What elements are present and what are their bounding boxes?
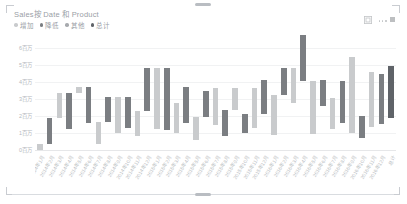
bar-2014年12月[interactable] <box>144 31 150 150</box>
bar-segment <box>232 88 238 110</box>
chart-plot-area: 0百万1百万2百万3百万4百万5百万6百万 2014年1月2014年2月2014… <box>14 31 396 191</box>
bar-2015年5月[interactable] <box>193 31 199 150</box>
bar-2015年10月[interactable] <box>242 31 248 150</box>
legend-label-total: 总计 <box>96 20 110 30</box>
bar-2016年8月[interactable] <box>340 31 346 150</box>
bar-segment <box>96 122 102 144</box>
bar-segment <box>379 74 385 124</box>
x-axis-tick-label: 总计 <box>386 154 396 166</box>
page-title: Sales按 Date 和 Product <box>14 8 99 19</box>
bar-2015年11月[interactable] <box>252 31 258 150</box>
bar-segment <box>388 66 394 118</box>
resize-handle-top[interactable] <box>195 3 211 6</box>
y-axis-tick-label: 2百万 <box>19 112 32 120</box>
bar-2015年2月[interactable] <box>164 31 170 150</box>
bar-segment <box>320 80 326 106</box>
bar-2016年6月[interactable] <box>320 31 326 150</box>
bar-2015年9月[interactable] <box>232 31 238 150</box>
y-axis-tick-label: 5百万 <box>19 61 32 69</box>
bar-segment <box>154 68 160 128</box>
bar-2014年1月[interactable] <box>37 31 43 150</box>
bar-2014年2月[interactable] <box>47 31 53 150</box>
visual-header-actions <box>364 10 395 28</box>
bar-2015年8月[interactable] <box>222 31 228 150</box>
bar-2016年12月[interactable] <box>379 31 385 150</box>
bar-2016年1月[interactable] <box>271 31 277 150</box>
more-options-icon[interactable] <box>379 17 395 22</box>
bar-2015年1月[interactable] <box>154 31 160 150</box>
bar-segment <box>66 93 72 129</box>
legend-label-decrease: 降低 <box>45 20 59 30</box>
y-axis-tick-label: 4百万 <box>19 78 32 86</box>
bar-segment <box>57 93 63 118</box>
bar-segment <box>349 57 355 133</box>
legend-swatch-total <box>91 23 95 27</box>
bar-2014年8月[interactable] <box>105 31 111 150</box>
bar-2014年4月[interactable] <box>66 31 72 150</box>
y-axis-tick-label: 3百万 <box>19 95 32 103</box>
bar-segment <box>125 97 131 128</box>
bar-总计[interactable] <box>388 31 394 150</box>
bar-segment <box>271 95 277 135</box>
bar-segment <box>135 111 141 137</box>
bar-2015年6月[interactable] <box>203 31 209 150</box>
bar-segment <box>300 35 306 81</box>
bar-segment <box>222 110 228 136</box>
bar-2014年5月[interactable] <box>76 31 82 150</box>
bar-segment <box>144 68 150 111</box>
bar-segment <box>359 116 365 138</box>
bar-2014年6月[interactable] <box>86 31 92 150</box>
bar-2014年3月[interactable] <box>57 31 63 150</box>
bar-segment <box>115 97 121 133</box>
bar-segment <box>291 68 297 104</box>
bar-segment <box>76 87 82 93</box>
bar-2016年10月[interactable] <box>359 31 365 150</box>
bar-2015年3月[interactable] <box>174 31 180 150</box>
bar-2016年9月[interactable] <box>349 31 355 150</box>
bar-2016年3月[interactable] <box>291 31 297 150</box>
waterfall-chart-visual[interactable]: Sales按 Date 和 Product 增加 降低 其他 <box>6 5 400 195</box>
focus-mode-icon[interactable] <box>364 10 372 28</box>
legend-item-increase[interactable]: 增加 <box>14 20 34 30</box>
bar-segment <box>340 81 346 123</box>
bar-segment <box>310 81 316 134</box>
bar-segment <box>252 88 258 127</box>
visual-corner-top-left <box>6 5 14 13</box>
bar-2016年4月[interactable] <box>300 31 306 150</box>
bar-segment <box>261 80 267 114</box>
x-axis: 2014年1月2014年2月2014年3月2014年4月2014年5月2014年… <box>35 152 396 204</box>
bar-segment <box>105 97 111 123</box>
bar-segment <box>47 118 53 143</box>
bar-segment <box>203 91 209 117</box>
bar-2014年7月[interactable] <box>96 31 102 150</box>
legend-item-decrease[interactable]: 降低 <box>40 20 60 30</box>
bar-segment <box>330 98 336 129</box>
bar-segment <box>369 72 375 127</box>
bar-segment <box>164 68 170 130</box>
legend-label-other: 其他 <box>71 20 85 30</box>
bar-2016年5月[interactable] <box>310 31 316 150</box>
bar-segment <box>193 117 199 140</box>
bar-2015年4月[interactable] <box>183 31 189 150</box>
bar-2016年2月[interactable] <box>281 31 287 150</box>
bar-series <box>35 31 396 150</box>
bar-2014年9月[interactable] <box>115 31 121 150</box>
legend-item-total[interactable]: 总计 <box>91 20 111 30</box>
legend-swatch-increase <box>14 23 18 27</box>
y-axis-tick-label: 6百万 <box>19 44 32 52</box>
legend-swatch-other <box>65 23 69 27</box>
bar-2016年7月[interactable] <box>330 31 336 150</box>
chart-legend: 增加 降低 其他 总计 <box>14 20 110 30</box>
legend-item-other[interactable]: 其他 <box>65 20 85 30</box>
legend-swatch-decrease <box>40 23 44 27</box>
bar-2016年11月[interactable] <box>369 31 375 150</box>
bar-2014年11月[interactable] <box>135 31 141 150</box>
bar-segment <box>281 68 287 95</box>
bar-segment <box>183 87 189 123</box>
y-axis-tick-label: 0百万 <box>19 146 32 154</box>
bar-2015年7月[interactable] <box>213 31 219 150</box>
bar-segment <box>242 114 248 133</box>
bar-segment <box>174 103 180 133</box>
bar-2014年10月[interactable] <box>125 31 131 150</box>
bar-2015年12月[interactable] <box>261 31 267 150</box>
